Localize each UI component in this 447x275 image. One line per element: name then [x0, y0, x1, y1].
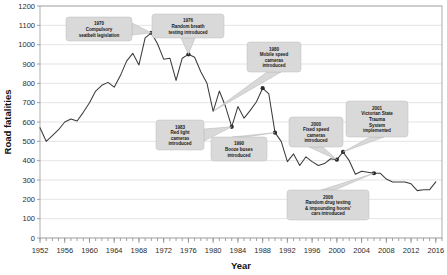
y-tick-label: 100 — [22, 214, 35, 223]
callout-line: introduced — [304, 138, 327, 143]
x-axis-title: Year — [231, 260, 251, 271]
callout-leader — [181, 38, 195, 54]
y-tick-label: 300 — [22, 176, 35, 185]
callout-line: Random breath — [171, 24, 204, 29]
callout-line: cameras — [265, 58, 284, 63]
x-tick-label: 1996 — [304, 246, 321, 255]
callout-line: cameras — [171, 136, 190, 141]
callout-line: 2006 — [323, 195, 334, 200]
callout-line: cameras — [307, 133, 326, 138]
x-tick-label: 1988 — [254, 246, 271, 255]
callout-line: 1976 — [183, 18, 194, 23]
data-point-1988[interactable] — [261, 86, 265, 90]
chart-canvas: 0100200300400500600700800900100011001200… — [0, 0, 447, 275]
callout-line: 1980 — [269, 47, 280, 52]
callout-line: 1983 — [175, 125, 186, 130]
callout-line: cars introduced — [311, 211, 345, 216]
y-tick-label: 200 — [22, 195, 35, 204]
x-tick-label: 1972 — [155, 246, 172, 255]
callout-leader — [321, 173, 374, 190]
callout-line: introduced — [262, 63, 285, 68]
callout-line: & impounding hoons' — [305, 206, 351, 211]
y-tick-label: 700 — [22, 98, 35, 107]
callout-line: 2001 — [372, 106, 383, 111]
x-tick-label: 1956 — [56, 246, 73, 255]
callout-a1990[interactable]: 1990Booze busesintroduced — [211, 133, 275, 161]
y-tick-label: 1200 — [18, 2, 35, 11]
callout-line: Random drug testing — [305, 200, 350, 205]
y-tick-label: 400 — [22, 156, 35, 165]
x-tick-label: 2016 — [427, 246, 444, 255]
callout-line: introduced — [168, 141, 191, 146]
callout-line: 1970 — [94, 21, 105, 26]
x-tick-label: 1976 — [180, 246, 197, 255]
callout-a1976[interactable]: 1976Random breathtesting introduced — [152, 14, 224, 54]
x-tick-label: 1992 — [279, 246, 296, 255]
x-tick-label: 1960 — [81, 246, 98, 255]
callout-line: Fixed speed — [303, 127, 329, 132]
x-tick-label: 1952 — [32, 246, 49, 255]
x-tick-label: 1980 — [205, 246, 222, 255]
callout-line: Compulsory — [86, 27, 113, 32]
callout-a2001[interactable]: 2001Victorian StateTraumaSystemimplement… — [343, 101, 408, 152]
callout-line: 2000 — [311, 122, 322, 127]
y-tick-label: 600 — [22, 118, 35, 127]
callout-line: Mobile speed — [260, 52, 289, 57]
callout-line: implemented — [363, 128, 391, 133]
y-tick-label: 1100 — [19, 21, 35, 30]
x-tick-label: 1964 — [106, 246, 123, 255]
y-tick-label: 900 — [22, 60, 35, 69]
x-tick-label: 1984 — [230, 246, 247, 255]
callout-line: Trauma — [369, 117, 386, 122]
y-tick-label: 1000 — [18, 40, 35, 49]
callout-leader — [343, 137, 384, 152]
callout-leader — [232, 133, 275, 137]
x-tick-label: 1968 — [131, 246, 148, 255]
callout-leader — [132, 23, 151, 35]
callout-leader — [309, 147, 337, 160]
x-tick-label: 2000 — [329, 246, 346, 255]
x-tick-label: 2012 — [403, 246, 420, 255]
y-tick-label: 500 — [22, 137, 35, 146]
x-tick-label: 2008 — [378, 246, 395, 255]
callout-line: introduced — [227, 153, 250, 158]
y-tick-label: 0 — [31, 234, 35, 243]
callout-line: Victorian State — [361, 111, 393, 116]
x-tick-label: 2004 — [353, 246, 370, 255]
callout-line: Red light — [170, 130, 190, 135]
callout-line: seatbelt legislation — [79, 33, 120, 38]
callout-line: 1990 — [234, 141, 245, 146]
callout-a1970[interactable]: 1970Compulsoryseatbelt legislation — [66, 17, 151, 41]
callout-line: System — [369, 123, 385, 128]
callout-a2000[interactable]: 2000Fixed speedcamerasintroduced — [289, 117, 343, 160]
road-fatalities-chart: 0100200300400500600700800900100011001200… — [0, 0, 447, 275]
y-axis-title: Road fatalities — [2, 90, 13, 155]
y-tick-label: 800 — [22, 79, 35, 88]
callout-line: testing introduced — [168, 30, 207, 35]
callout-line: Booze buses — [225, 147, 253, 152]
